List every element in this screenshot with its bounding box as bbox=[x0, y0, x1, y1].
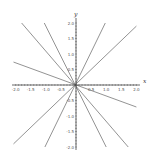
y-tick-label: -1.5 bbox=[66, 129, 74, 134]
y-tick-label: 0.5 bbox=[68, 67, 75, 72]
x-tick-label: -2.0 bbox=[12, 87, 20, 92]
x-tick-label: 2.0 bbox=[133, 87, 140, 92]
y-tick-label: -0.5 bbox=[66, 98, 74, 103]
y-tick-label: 1.5 bbox=[68, 36, 75, 41]
y-tick-label: -2.0 bbox=[66, 145, 74, 150]
x-tick-label: 1.0 bbox=[103, 87, 110, 92]
y-tick-label: 1.0 bbox=[68, 52, 75, 57]
x-tick-label: 1.5 bbox=[118, 87, 125, 92]
x-tick-label: -0.5 bbox=[57, 87, 65, 92]
x-tick-label: -1.0 bbox=[42, 87, 50, 92]
x-axis-label: x bbox=[143, 77, 147, 84]
y-tick-label: -1.0 bbox=[66, 114, 74, 119]
y-axis-label: y bbox=[73, 10, 78, 18]
y-tick-label: 2.0 bbox=[68, 21, 75, 26]
axes: x y bbox=[12, 10, 147, 150]
chart-canvas: x y -2.0-1.5-1.0-0.50.51.01.52.02.01.51.… bbox=[0, 0, 154, 161]
x-tick-label: -1.5 bbox=[27, 87, 35, 92]
x-tick-label: 0.5 bbox=[88, 87, 95, 92]
